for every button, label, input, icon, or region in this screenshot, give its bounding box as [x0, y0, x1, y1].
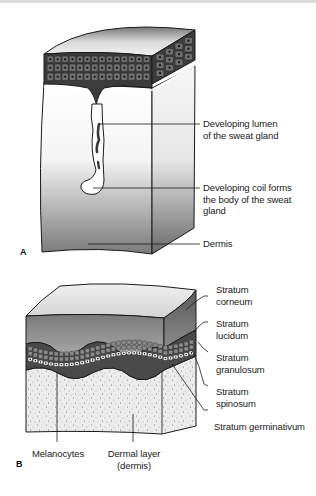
spinosum-cell	[90, 347, 94, 351]
spinosum-cell	[163, 346, 167, 350]
label-line: (dermis)	[104, 460, 164, 472]
spinosum-cell	[127, 345, 131, 349]
spinosum-cell	[111, 347, 115, 351]
cell-nucleus	[94, 67, 96, 69]
spinosum-cell	[59, 352, 63, 356]
label-melanocytes: Melanocytes	[28, 448, 88, 460]
cell-nucleus	[159, 56, 161, 58]
cell-nucleus	[108, 67, 110, 69]
label-line: spinosum	[216, 398, 256, 410]
cell-nucleus	[138, 76, 140, 78]
label-line: Developing lumen	[203, 118, 278, 130]
cell-nucleus	[102, 356, 104, 358]
cell-nucleus	[116, 67, 118, 69]
label-stratum-lucidum: Stratum lucidum	[216, 318, 249, 341]
spinosum-cell	[75, 356, 79, 360]
cell-nucleus	[123, 58, 125, 60]
cell-nucleus	[45, 362, 47, 364]
panel-letter-b: B	[16, 459, 23, 469]
label-stratum-spinosum: Stratum spinosum	[216, 386, 256, 409]
label-line: of the sweat gland	[203, 130, 278, 142]
cell-nucleus	[64, 67, 66, 69]
spinosum-cell	[132, 345, 136, 349]
label-stratum-corneum: Stratum corneum	[216, 284, 252, 307]
cell-nucleus	[49, 76, 51, 78]
label-line: Stratum	[216, 352, 265, 364]
spinosum-cell	[96, 346, 100, 350]
spinosum-cell	[75, 351, 79, 355]
panel-b-block	[26, 284, 208, 442]
cell-nucleus	[116, 76, 118, 78]
cell-nucleus	[159, 356, 161, 358]
cell-nucleus	[180, 355, 182, 357]
spinosum-cell	[44, 350, 48, 354]
cell-nucleus	[168, 51, 170, 53]
cell-nucleus	[139, 352, 141, 354]
cell-nucleus	[79, 76, 81, 78]
spinosum-cell	[174, 344, 178, 348]
cell-nucleus	[64, 58, 66, 60]
cell-nucleus	[187, 40, 189, 42]
cell-nucleus	[81, 362, 83, 364]
cell-nucleus	[40, 361, 42, 363]
spinosum-cell	[101, 344, 105, 348]
spinosum-cell	[33, 348, 37, 352]
spinosum-cell	[148, 347, 152, 351]
cell-nucleus	[154, 355, 156, 357]
spinosum-cell	[64, 352, 68, 356]
cell-nucleus	[168, 67, 170, 69]
cell-nucleus	[87, 361, 89, 363]
label-line: lucidum	[216, 330, 249, 342]
label-line: Dermal layer	[104, 448, 164, 460]
cell-nucleus	[116, 58, 118, 60]
cell-nucleus	[113, 354, 115, 356]
cell-nucleus	[94, 76, 96, 78]
cell-nucleus	[71, 67, 73, 69]
spinosum-cell	[49, 351, 53, 355]
cell-nucleus	[108, 58, 110, 60]
label-line: the body of the sweat	[203, 194, 292, 206]
cell-nucleus	[71, 364, 73, 366]
cell-nucleus	[101, 76, 103, 78]
cell-nucleus	[118, 353, 120, 355]
spinosum-cell	[106, 343, 110, 347]
spinosum-cell	[116, 346, 120, 350]
spinosum-cell	[174, 349, 178, 353]
label-line: Stratum	[216, 284, 252, 296]
cell-nucleus	[149, 354, 151, 356]
cell-nucleus	[61, 364, 63, 366]
spinosum-cell	[64, 357, 68, 361]
cell-nucleus	[131, 67, 133, 69]
spinosum-cell	[80, 355, 84, 359]
cell-nucleus	[123, 352, 125, 354]
panel-a-side-face	[152, 66, 195, 254]
leader-granulosum	[198, 342, 208, 352]
spinosum-cell	[179, 343, 183, 347]
spinosum-cell	[106, 348, 110, 352]
spinosum-cell	[80, 350, 84, 354]
spinosum-cell	[137, 345, 141, 349]
cell-nucleus	[168, 59, 170, 61]
cell-nucleus	[57, 76, 59, 78]
cell-nucleus	[79, 67, 81, 69]
cell-nucleus	[55, 364, 57, 366]
label-stratum-germinativum: Stratum germinativum	[214, 421, 305, 433]
cell-nucleus	[66, 364, 68, 366]
spinosum-cell	[158, 349, 162, 353]
spinosum-cell	[163, 351, 167, 355]
cell-nucleus	[108, 76, 110, 78]
cell-nucleus	[178, 45, 180, 47]
spinosum-cell	[70, 357, 74, 361]
spinosum-cell	[168, 345, 172, 349]
label-developing-coil: Developing coil forms the body of the sw…	[203, 182, 292, 217]
cell-nucleus	[128, 352, 130, 354]
label-line: granulosum	[216, 364, 265, 376]
cell-nucleus	[131, 58, 133, 60]
cell-nucleus	[144, 353, 146, 355]
cell-nucleus	[50, 363, 52, 365]
cell-nucleus	[187, 56, 189, 58]
spinosum-cell	[28, 352, 32, 356]
cell-nucleus	[178, 61, 180, 63]
cell-nucleus	[187, 48, 189, 50]
spinosum-cell	[90, 352, 94, 356]
